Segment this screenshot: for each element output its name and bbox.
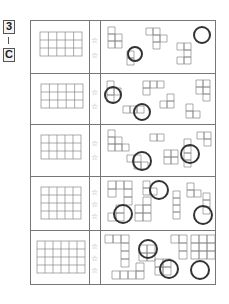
answer-circle [150,181,168,199]
label-separator [8,37,9,44]
puzzle-row-5-figure [31,231,215,284]
puzzle-row-1: ☆ ☆ [31,21,215,74]
puzzle-row-3-figure [31,125,215,176]
puzzle-row-5: ☆ ☆ ☆ [31,231,215,284]
star-icon: ☆ [91,213,98,221]
answer-circle [194,27,210,43]
answer-circle [139,240,157,258]
puzzle-row-2: ☆ ☆ [31,74,215,125]
star-icon: ☆ [91,154,98,162]
star-icon: ☆ [91,243,98,251]
star-icon: ☆ [91,52,98,60]
puzzle-row-4: ☆ ☆ ☆ [31,177,215,231]
worksheet-letter-label: C [3,48,15,62]
worksheet: ☆ ☆ ☆ ☆ [30,20,216,285]
puzzle-row-4-figure [31,177,215,230]
star-icon: ☆ [91,267,98,275]
answer-circle [114,205,132,223]
answer-circle [191,261,209,279]
puzzle-row-2-figure [31,74,215,124]
star-icon: ☆ [91,37,98,45]
answer-circle [128,47,142,61]
worksheet-number-label: 3 [3,20,15,34]
star-icon: ☆ [91,255,98,263]
answer-circle [133,152,151,170]
star-icon: ☆ [91,201,98,209]
puzzle-row-3: ☆ ☆ [31,125,215,177]
star-icon: ☆ [91,89,98,97]
star-icon: ☆ [91,189,98,197]
star-icon: ☆ [91,103,98,111]
star-icon: ☆ [91,140,98,148]
answer-circle [134,104,150,120]
puzzle-row-1-figure [31,21,215,73]
